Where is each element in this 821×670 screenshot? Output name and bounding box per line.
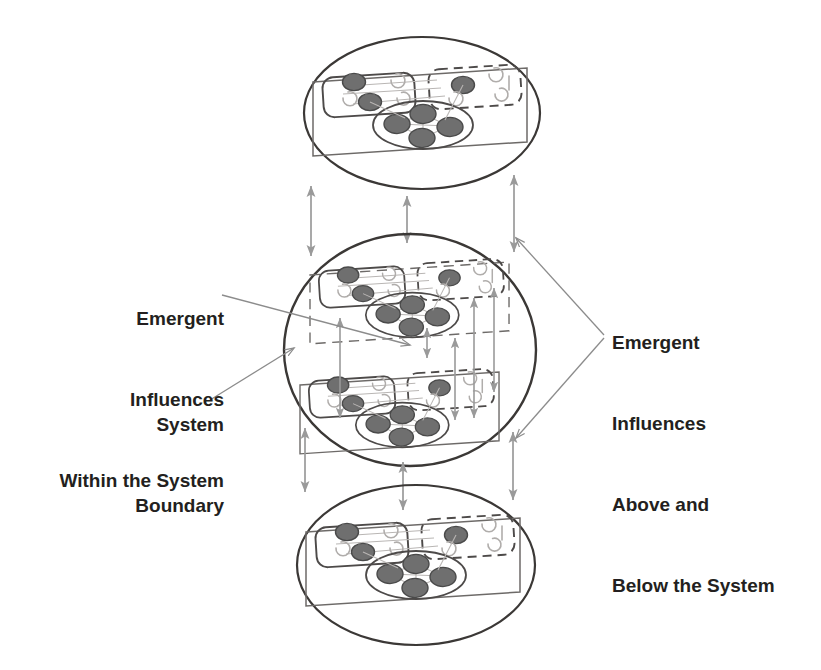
diagram-canvas: Emergent Influences Within the System Sy… bbox=[0, 0, 821, 670]
label-line: Influences bbox=[612, 411, 817, 438]
leader-emergent-above bbox=[516, 238, 604, 335]
emergent-influences-above-and-below-the-system-label: Emergent Influences Above and Below the … bbox=[612, 276, 817, 654]
system-boundary-label: System Boundary bbox=[28, 358, 224, 574]
focal-system-level bbox=[284, 234, 536, 466]
label-line: Above and bbox=[612, 492, 817, 519]
system-level-above bbox=[304, 37, 540, 189]
label-line: System bbox=[28, 412, 224, 439]
system-level-below bbox=[297, 485, 535, 645]
level-below-system-unit bbox=[306, 514, 520, 606]
label-line: Emergent bbox=[612, 330, 817, 357]
label-line: Boundary bbox=[28, 493, 224, 520]
inter-level-arrows-upper bbox=[311, 175, 514, 256]
level-above-system-unit bbox=[313, 64, 527, 156]
label-line: Emergent bbox=[28, 306, 224, 333]
label-line: Below the System bbox=[612, 573, 817, 600]
